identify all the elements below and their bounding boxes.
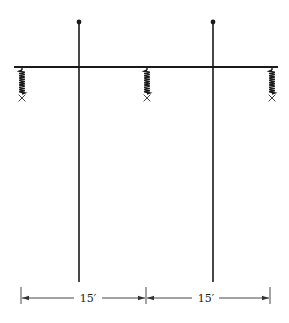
post-left: [77, 20, 82, 282]
arrowhead-2-right: [262, 296, 269, 300]
post-left-top-dot: [77, 20, 82, 25]
spring-right: [269, 68, 276, 101]
dimension-lines: 15′ 15′: [21, 287, 270, 305]
spring-left: [19, 68, 26, 101]
post-right: [211, 20, 216, 282]
spring-middle: [144, 68, 151, 101]
spring-left-coil: [19, 70, 25, 94]
spring-middle-coil: [144, 70, 150, 94]
arrowhead-2-left: [147, 296, 154, 300]
spring-right-coil: [269, 70, 275, 94]
beam-diagram: 15′ 15′: [0, 0, 289, 323]
springs-group: [19, 68, 276, 101]
arrowhead-1-right: [138, 296, 145, 300]
arrowhead-1-left: [22, 296, 29, 300]
post-right-top-dot: [211, 20, 216, 25]
dimension-label-2: 15′: [198, 292, 215, 305]
dimension-label-1: 15′: [80, 292, 97, 305]
